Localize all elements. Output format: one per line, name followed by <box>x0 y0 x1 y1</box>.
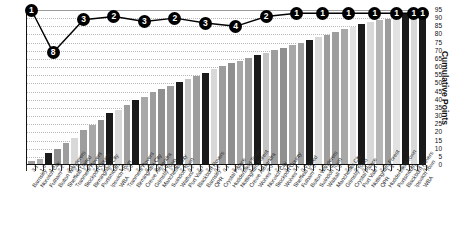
line-point-label: 3 <box>77 13 90 26</box>
x-axis-labels: 3.1Barnsley1.0Norwich City1.2Fulham2.2Bo… <box>26 171 426 242</box>
y-axis-title: Cumulative Points <box>437 10 453 165</box>
line-point-label: 1 <box>290 7 303 20</box>
line-point-label: 2 <box>260 10 273 23</box>
plot-area: 1832323421111111 <box>26 10 426 165</box>
line-point-markers: 1832323421111111 <box>27 10 426 164</box>
line-point-label: 3 <box>199 17 212 30</box>
line-point-label: 2 <box>168 12 181 25</box>
line-point-label: 1 <box>316 7 329 20</box>
line-point-label: 8 <box>47 46 60 59</box>
line-point-label: 1 <box>25 4 38 17</box>
line-point-label: 3 <box>138 15 151 28</box>
line-point-label: 1 <box>368 7 381 20</box>
line-point-label: 1 <box>390 7 403 20</box>
line-point-label: 2 <box>107 10 120 23</box>
line-point-label: 4 <box>229 20 242 33</box>
y-axis-title-label: Cumulative Points <box>440 50 450 124</box>
line-point-label: 1 <box>342 7 355 20</box>
cumulative-points-chart: 1832323421111111 05101520253035404550556… <box>0 0 462 242</box>
